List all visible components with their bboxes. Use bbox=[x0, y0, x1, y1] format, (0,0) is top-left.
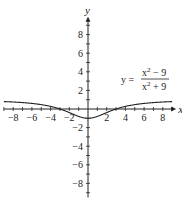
y-tick-label: −4 bbox=[72, 141, 83, 152]
function-graph: −8−6−4−224688642−2−4−6−8 x y y = x2 − 9 … bbox=[0, 0, 182, 205]
y-tick-label: −8 bbox=[72, 178, 83, 189]
equation-annotation: y = x2 − 9 x2 + 9 bbox=[121, 66, 169, 92]
x-tick-label: 8 bbox=[160, 112, 165, 123]
y-tick-label: −2 bbox=[72, 122, 83, 133]
x-tick-label: 6 bbox=[142, 112, 147, 123]
x-tick-label: −6 bbox=[27, 112, 38, 123]
x-tick-label: −4 bbox=[45, 112, 56, 123]
y-axis-label: y bbox=[84, 4, 90, 16]
y-tick-label: −6 bbox=[72, 159, 83, 170]
y-tick-label: 6 bbox=[78, 48, 83, 59]
y-tick-label: 2 bbox=[78, 85, 83, 96]
x-tick-label: −8 bbox=[8, 112, 19, 123]
y-tick-label: 8 bbox=[78, 29, 83, 40]
y-arrow-icon bbox=[86, 17, 91, 22]
equation-denominator: x2 + 9 bbox=[142, 80, 166, 92]
x-tick-label: 4 bbox=[123, 112, 128, 123]
equation-lhs: y = bbox=[121, 74, 135, 85]
x-axis-label: x bbox=[177, 103, 182, 115]
equation-numerator: x2 − 9 bbox=[142, 66, 166, 78]
y-tick-label: 4 bbox=[78, 66, 83, 77]
